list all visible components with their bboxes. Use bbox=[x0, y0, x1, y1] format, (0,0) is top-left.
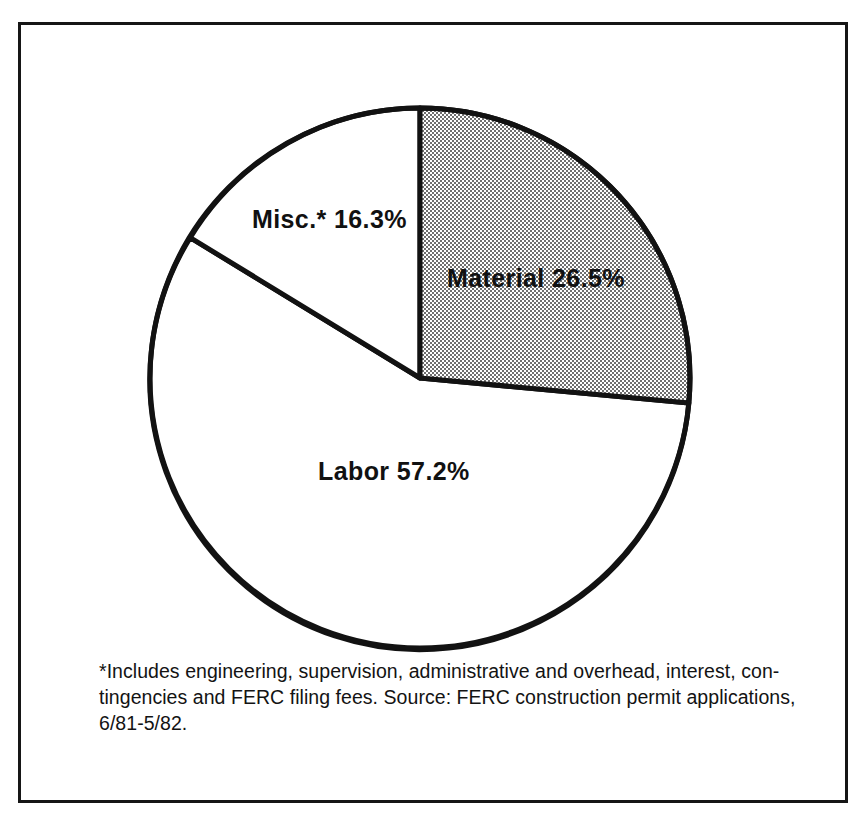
pie-slice-material bbox=[420, 108, 690, 403]
figure-root: Material 26.5% Misc.* 16.3% Labor 57.2% … bbox=[0, 0, 860, 817]
footnote-line-3: 6/81-5/82. bbox=[99, 710, 751, 736]
pie-label-misc: Misc.* 16.3% bbox=[252, 207, 407, 232]
pie-label-labor: Labor 57.2% bbox=[318, 459, 470, 484]
footnote-line-2: tingencies and FERC filing fees. Source:… bbox=[99, 684, 751, 710]
chart-footnote: *Includes engineering, supervision, admi… bbox=[99, 658, 751, 736]
footnote-line-1: *Includes engineering, supervision, admi… bbox=[99, 658, 751, 684]
pie-label-material: Material 26.5% bbox=[447, 266, 625, 291]
